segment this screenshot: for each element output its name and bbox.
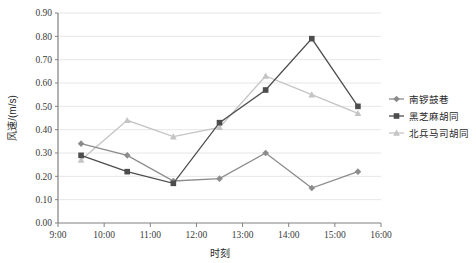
y-axis-title: 风速/(m/s) <box>7 95 18 141</box>
y-axis-tick-label: 0.60 <box>35 78 52 88</box>
y-axis-tick-label: 0.40 <box>35 125 52 135</box>
x-axis-tick-label: 15:00 <box>324 230 346 240</box>
x-axis-tick-label: 11:00 <box>140 230 162 240</box>
x-axis-tick-label: 12:00 <box>186 230 208 240</box>
wind-speed-line-chart: 0.000.100.200.300.400.500.600.700.800.90… <box>0 0 476 263</box>
data-point <box>171 181 177 187</box>
x-axis-tick-label: 14:00 <box>278 230 300 240</box>
chart-canvas: 0.000.100.200.300.400.500.600.700.800.90… <box>0 0 476 263</box>
data-point <box>78 140 85 147</box>
y-axis-tick-label: 0.80 <box>35 32 52 42</box>
y-axis-tick-label: 0.70 <box>35 55 52 65</box>
series-3 <box>78 73 362 163</box>
legend-label: 南锣鼓巷 <box>409 94 449 105</box>
data-point <box>78 153 84 159</box>
legend-marker-icon <box>393 96 400 103</box>
series-1 <box>78 140 361 191</box>
series-2 <box>78 36 360 186</box>
y-axis-tick-label: 0.30 <box>35 148 52 158</box>
y-axis-tick-label: 0.90 <box>35 8 52 18</box>
x-axis-title: 时刻 <box>210 247 230 259</box>
y-axis-tick-label: 0.10 <box>35 195 52 205</box>
series-line <box>81 39 358 184</box>
legend-label: 黑芝麻胡同 <box>409 111 459 122</box>
series-line <box>81 76 358 160</box>
data-point <box>217 120 223 126</box>
x-axis-tick-label: 10:00 <box>93 230 115 240</box>
data-point <box>355 168 362 175</box>
data-point <box>262 73 269 79</box>
y-axis-tick-label: 0.50 <box>35 102 52 112</box>
legend-item-3[interactable]: 北兵马司胡同 <box>389 128 469 139</box>
legend-item-1[interactable]: 南锣鼓巷 <box>389 94 449 105</box>
legend-marker-icon <box>394 113 400 119</box>
legend-label: 北兵马司胡同 <box>409 128 469 139</box>
y-axis-tick-label: 0.00 <box>35 218 52 228</box>
y-axis-tick-label: 0.20 <box>35 172 52 182</box>
data-point <box>355 104 361 110</box>
data-point <box>124 117 131 123</box>
x-axis-tick-label: 9:00 <box>50 230 67 240</box>
x-axis-tick-label: 13:00 <box>232 230 254 240</box>
data-point <box>263 87 269 93</box>
data-point <box>309 36 315 42</box>
x-axis-tick-label: 16:00 <box>370 230 392 240</box>
data-point <box>124 169 130 175</box>
legend-item-2[interactable]: 黑芝麻胡同 <box>389 111 459 122</box>
